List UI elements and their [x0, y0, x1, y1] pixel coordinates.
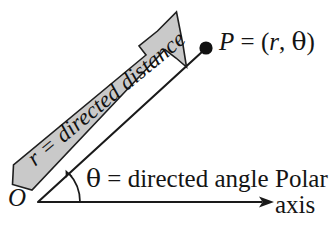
point-label-close: ) [307, 28, 315, 55]
point-label-theta: θ [291, 27, 306, 56]
angle-label-theta: θ [86, 164, 101, 193]
angle-arc [69, 173, 80, 202]
point-label-r: r [269, 28, 279, 55]
polar-axis-label-line1: Polar [275, 165, 328, 192]
polar-axis-label: Polar axis [275, 166, 328, 219]
origin-label: O [8, 185, 26, 211]
angle-label: θ = directed angle [86, 166, 269, 192]
point-label-comma: , [279, 28, 292, 55]
point-p-marker [199, 41, 212, 54]
point-label-equals: = ( [234, 28, 269, 55]
polar-axis-label-line2: axis [275, 192, 328, 218]
point-label: P = (r, θ) [219, 29, 315, 55]
point-label-p: P [219, 28, 234, 55]
polar-coordinates-diagram: r = directed distance P = (r, θ) O θ = d… [0, 0, 331, 240]
angle-label-rest: = directed angle [101, 165, 269, 192]
